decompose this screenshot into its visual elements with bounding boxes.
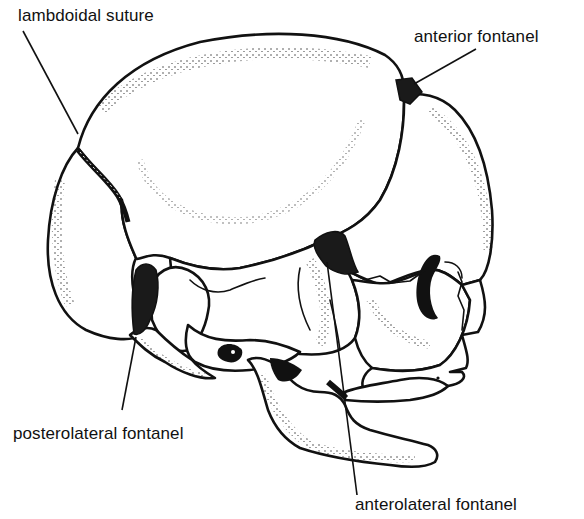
leader-anterior	[414, 49, 476, 84]
leader-lambdoidal	[23, 31, 78, 134]
label-posterolateral-fontanel: posterolateral fontanel	[13, 425, 184, 442]
label-anterolateral-fontanel: anterolateral fontanel	[355, 496, 517, 513]
leader-posterolateral	[122, 337, 136, 410]
label-anterior-fontanel: anterior fontanel	[414, 28, 539, 45]
skull-diagram: lambdoidal suture anterior fontanel post…	[0, 0, 584, 519]
label-lambdoidal-suture: lambdoidal suture	[18, 7, 154, 24]
